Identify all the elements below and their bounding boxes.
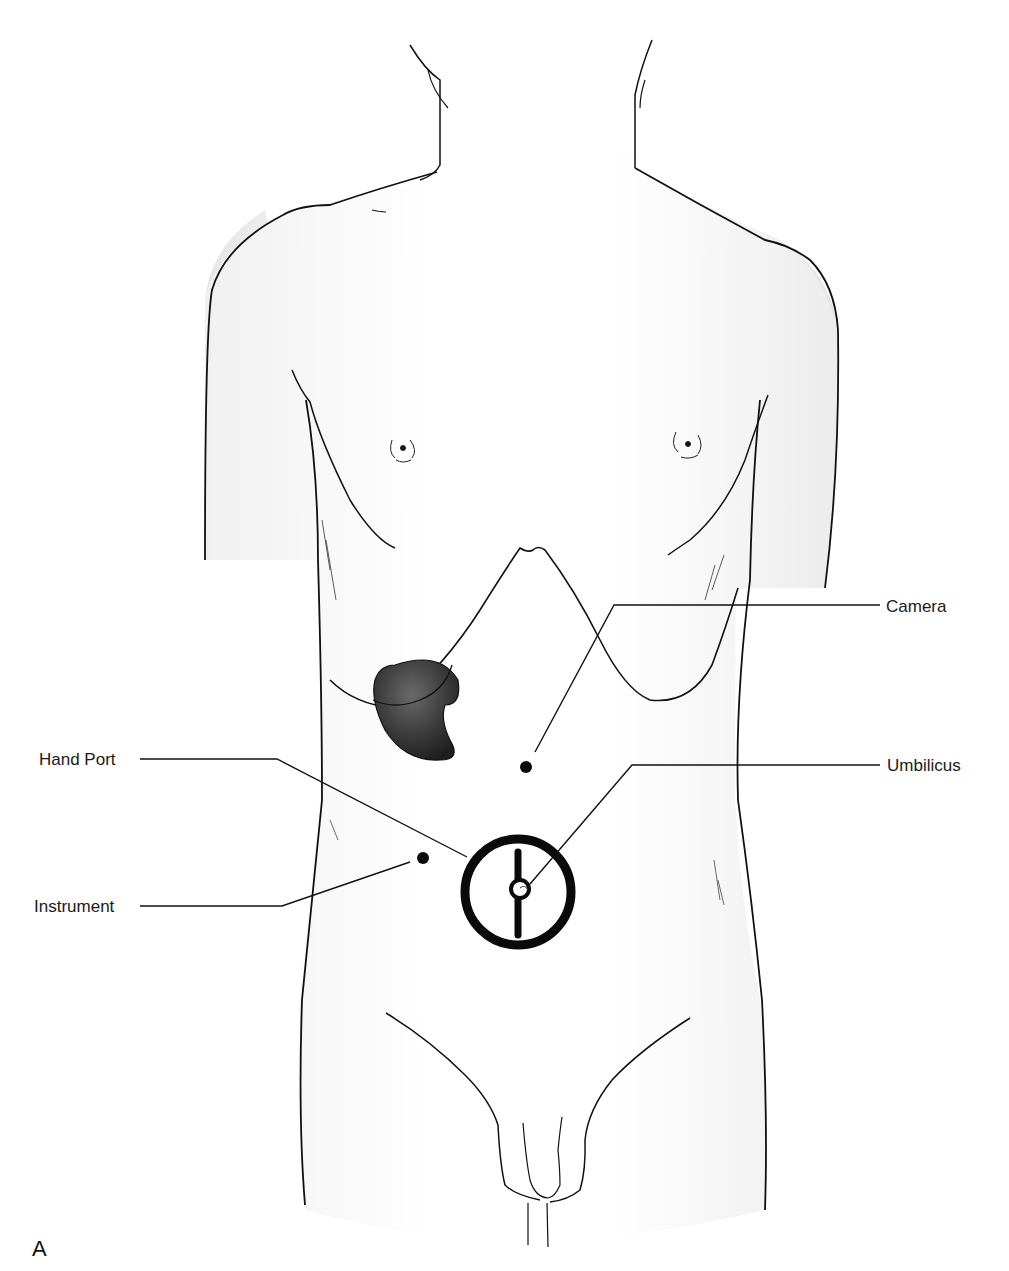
hand-port-label: Hand Port xyxy=(39,750,116,770)
torso-illustration xyxy=(0,0,1009,1271)
panel-letter: A xyxy=(32,1236,47,1262)
instrument-label: Instrument xyxy=(34,897,114,917)
neck-left xyxy=(410,45,440,180)
umbilicus-label: Umbilicus xyxy=(887,756,961,776)
camera-port-dot xyxy=(520,761,532,773)
camera-label: Camera xyxy=(886,597,946,617)
instrument-port-dot xyxy=(417,852,429,864)
neck-right xyxy=(635,40,652,168)
laparoscopic-port-diagram: Camera Hand Port Umbilicus Instrument A xyxy=(0,0,1009,1271)
